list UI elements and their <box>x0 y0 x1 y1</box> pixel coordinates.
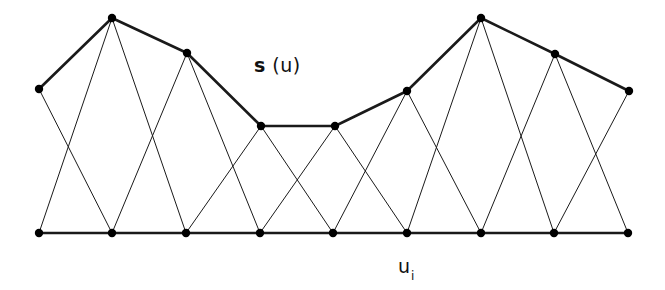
triangulation-edge <box>481 18 554 233</box>
curve-vertex-dot <box>551 50 559 58</box>
curve-vertex-dot <box>183 49 191 57</box>
triangulation-edge <box>407 18 481 233</box>
baseline-label-subscript: i <box>411 269 414 283</box>
strip-triangulation-diagram <box>0 0 665 290</box>
curve-vertex-dot <box>257 122 265 130</box>
baseline-vertex-dot <box>35 229 43 237</box>
triangulation-edge <box>335 126 407 233</box>
triangulation-edge <box>112 18 186 233</box>
triangulation-edge <box>39 18 112 233</box>
baseline-vertex-dot <box>624 229 632 237</box>
curve-vertex-dot <box>403 87 411 95</box>
baseline-vertex-dot <box>329 229 337 237</box>
curve-polyline <box>39 18 629 126</box>
curve-label: s (u) <box>254 56 301 75</box>
baseline-vertex-dot <box>256 229 264 237</box>
baseline-vertex-dot <box>182 229 190 237</box>
curve-vertex-dot <box>108 14 116 22</box>
curve-vertex-dot <box>35 85 43 93</box>
curve-vertex-dot <box>625 87 633 95</box>
triangulation-edge <box>481 54 555 233</box>
curve-label-symbol: s <box>254 54 266 76</box>
baseline-vertex-dot <box>477 229 485 237</box>
figure-canvas: s (u) ui <box>0 0 665 290</box>
curve-vertex-dot <box>477 14 485 22</box>
baseline-vertex-dot <box>403 229 411 237</box>
baseline-label-symbol: u <box>398 255 410 277</box>
curve-vertex-group <box>35 14 633 130</box>
triangulation-edge <box>555 54 628 233</box>
curve-polyline-path <box>39 18 629 126</box>
curve-vertex-dot <box>331 122 339 130</box>
triangulation-edge <box>333 91 407 233</box>
curve-label-argument: (u) <box>266 54 301 76</box>
baseline-vertex-dot <box>550 229 558 237</box>
triangulation-edge <box>407 91 481 233</box>
baseline-vertex-dot <box>108 229 116 237</box>
triangulation-edge <box>112 53 187 233</box>
triangulation-edge <box>554 91 629 233</box>
baseline-label: ui <box>398 257 413 280</box>
triangulation-edge <box>39 89 112 233</box>
